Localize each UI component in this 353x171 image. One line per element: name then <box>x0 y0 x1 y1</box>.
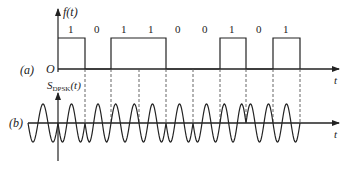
s-dpsk-axis-label: SDPSK(t) <box>47 79 81 93</box>
panel-a-label: (a) <box>20 63 34 77</box>
bit-boundary-guides <box>85 69 300 123</box>
bit-label: 0 <box>256 23 262 35</box>
bit-label: 1 <box>283 23 289 35</box>
t-axis-label-a: t <box>334 74 338 86</box>
origin-label: O <box>46 62 55 76</box>
bit-label: 1 <box>229 23 235 35</box>
bit-label: 1 <box>121 23 127 35</box>
dpsk-diagram: (a) O f(t) t 1 0 1 1 0 0 1 0 1 (b) SDPSK… <box>0 0 353 171</box>
bit-label: 0 <box>202 23 208 35</box>
binary-signal-waveform <box>58 38 300 69</box>
panel-b-label: (b) <box>9 116 23 130</box>
bit-labels: 1 0 1 1 0 0 1 0 1 <box>68 23 289 35</box>
bit-label: 1 <box>148 23 154 35</box>
bit-label: 1 <box>68 23 74 35</box>
t-axis-label-b: t <box>334 128 338 140</box>
f-t-axis-label: f(t) <box>63 5 78 19</box>
bit-label: 0 <box>175 23 181 35</box>
bit-label: 0 <box>94 23 100 35</box>
